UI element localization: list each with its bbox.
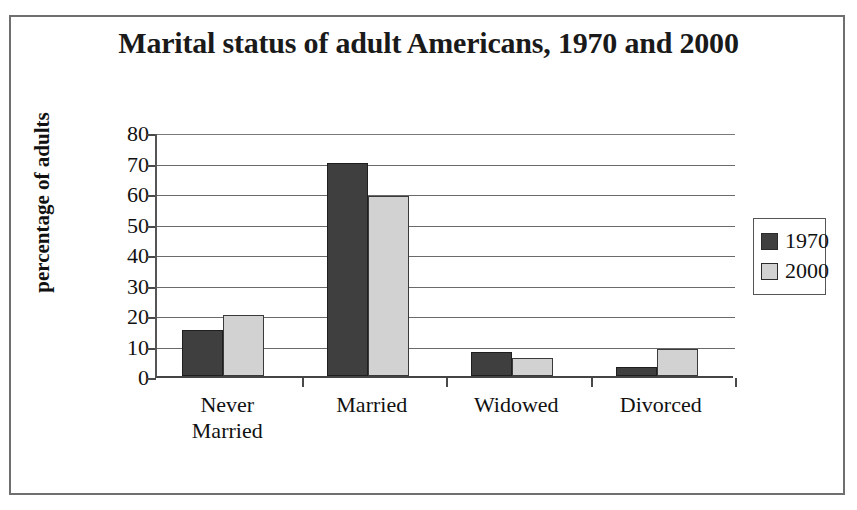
gridline-60: [157, 195, 735, 196]
legend-label-2000: 2000: [785, 260, 829, 282]
legend-label-1970: 1970: [785, 230, 829, 252]
y-tick-label-0: 0: [103, 367, 149, 389]
x-label-line: Divorced: [589, 392, 734, 418]
bar-never-married-2000: [223, 315, 264, 376]
plot-area: [155, 134, 733, 378]
y-tick-label-20: 20: [103, 306, 149, 328]
x-axis-label-widowed: Widowed: [444, 392, 589, 418]
x-axis-separator-2: [446, 378, 448, 387]
gridline-50: [157, 226, 735, 227]
gridline-40: [157, 256, 735, 257]
y-tick-label-80: 80: [103, 123, 149, 145]
x-axis-label-divorced: Divorced: [589, 392, 734, 418]
legend-item-2000: 2000: [761, 256, 819, 286]
y-tick-label-40: 40: [103, 245, 149, 267]
x-label-line: Married: [155, 418, 300, 444]
x-axis-separator-1: [302, 378, 304, 387]
x-label-line: Widowed: [444, 392, 589, 418]
bar-married-2000: [368, 196, 409, 376]
x-axis-separator-3: [591, 378, 593, 387]
x-label-line: Married: [300, 392, 445, 418]
chart-title: Marital status of adult Americans, 1970 …: [0, 26, 857, 60]
x-axis-label-never-married: NeverMarried: [155, 392, 300, 444]
chart-figure: Marital status of adult Americans, 1970 …: [0, 0, 857, 510]
y-axis-tick-labels: 80706050403020100: [99, 134, 149, 378]
y-tick-label-30: 30: [103, 276, 149, 298]
x-axis-separator-end: [735, 378, 737, 387]
bar-married-1970: [327, 163, 368, 377]
gridline-80: [157, 134, 735, 135]
y-tick-mark-0: [147, 378, 156, 380]
x-axis-label-married: Married: [300, 392, 445, 418]
bar-widowed-1970: [471, 352, 512, 376]
bar-widowed-2000: [512, 358, 553, 376]
x-label-line: Never: [155, 392, 300, 418]
y-tick-label-60: 60: [103, 184, 149, 206]
bar-divorced-1970: [616, 367, 657, 376]
gridline-30: [157, 287, 735, 288]
bar-never-married-1970: [182, 330, 223, 376]
gridline-70: [157, 165, 735, 166]
y-tick-label-50: 50: [103, 215, 149, 237]
y-tick-label-70: 70: [103, 154, 149, 176]
legend-swatch-1970: [761, 233, 778, 250]
y-tick-label-10: 10: [103, 337, 149, 359]
bar-divorced-2000: [657, 349, 698, 376]
chart-legend: 19702000: [753, 218, 826, 295]
y-axis-title: percentage of adults: [30, 98, 55, 308]
legend-item-1970: 1970: [761, 226, 819, 256]
legend-swatch-2000: [761, 263, 778, 280]
